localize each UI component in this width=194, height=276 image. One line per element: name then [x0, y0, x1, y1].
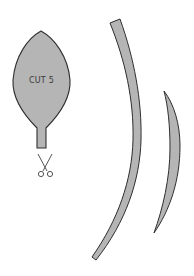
long-curved-blade-piece: [92, 19, 141, 260]
leaf-piece: [13, 31, 70, 148]
craft-template-canvas: [0, 0, 194, 276]
short-curved-blade-piece: [154, 91, 180, 233]
leaf-piece-label: CUT 5: [29, 76, 54, 85]
scissors-icon: [38, 154, 53, 177]
